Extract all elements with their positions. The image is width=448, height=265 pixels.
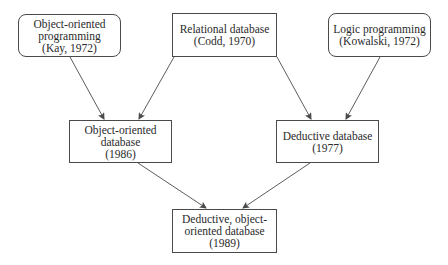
- node-label-line: (Kay, 1972): [42, 42, 97, 54]
- node-label-line: programming: [38, 30, 101, 42]
- node-label-line: Deductive database: [283, 130, 373, 142]
- node-label-line: (Codd, 1970): [194, 35, 255, 47]
- edge-logic-to-deddb: [346, 57, 380, 119]
- node-label-line: (1977): [312, 142, 343, 154]
- node-label-line: database: [101, 136, 141, 148]
- node-object-oriented-database: Object-oriented database (1986): [69, 120, 172, 163]
- edge-reldb-to-oodb: [139, 57, 174, 119]
- node-object-oriented-programming: Object-oriented programming (Kay, 1972): [18, 14, 121, 57]
- node-label-line: Logic programming: [333, 23, 425, 35]
- node-label-line: (1989): [209, 237, 240, 249]
- node-relational-database: Relational database (Codd, 1970): [172, 13, 277, 57]
- node-label-line: Object-oriented: [84, 124, 156, 136]
- node-label-line: Object-oriented: [33, 18, 105, 30]
- node-label-line: Relational database: [180, 23, 270, 35]
- diagram-canvas: Object-oriented programming (Kay, 1972) …: [0, 0, 448, 265]
- edge-deddb-to-dooddb: [243, 163, 310, 208]
- edge-oodb-to-dooddb: [138, 163, 206, 208]
- node-label-line: Deductive, object-: [182, 213, 267, 225]
- edge-oop-to-oodb: [70, 57, 104, 119]
- node-label-line: (1986): [105, 148, 136, 160]
- node-deductive-object-oriented-database: Deductive, object- oriented database (19…: [172, 209, 277, 253]
- edge-reldb-to-deddb: [277, 57, 311, 119]
- node-label-line: oriented database: [184, 225, 264, 237]
- node-logic-programming: Logic programming (Kowalski, 1972): [328, 13, 431, 57]
- node-label-line: (Kowalski, 1972): [339, 35, 420, 47]
- node-deductive-database: Deductive database (1977): [276, 120, 379, 163]
